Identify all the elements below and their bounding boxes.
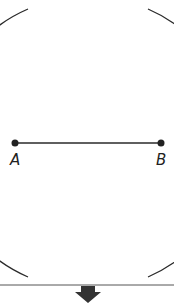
down-arrow-icon — [75, 286, 101, 303]
point-b — [158, 140, 165, 147]
label-a: A — [10, 151, 20, 169]
point-a — [12, 140, 19, 147]
construction-diagram — [0, 0, 174, 303]
label-b: B — [156, 151, 166, 169]
